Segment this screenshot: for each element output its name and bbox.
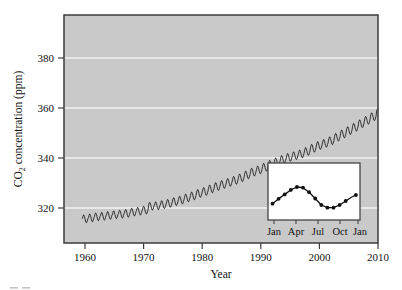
y-axis-title: CO2 concentration (ppm): [12, 71, 27, 188]
y-tick-label-340: 340: [38, 152, 55, 164]
inset-point-oct: [326, 206, 330, 210]
inset-x-label-jan: Jan: [267, 226, 282, 237]
inset-point-aug: [313, 197, 317, 201]
co2-concentration-chart: 380 360 340 320 CO2 concentration (ppm) …: [0, 0, 402, 290]
inset-point-dec: [338, 203, 342, 207]
inset-point-sep: [319, 203, 323, 207]
x-axis-tick-labels: 1960 1970 1980 1990 2000 2010: [74, 251, 390, 263]
inset-point-jan: [271, 202, 275, 206]
y-axis-tick-labels: 380 360 340 320: [38, 52, 55, 214]
svg-text:CO2 concentration (ppm): CO2 concentration (ppm): [12, 71, 27, 188]
inset-x-label-oct: Oct: [332, 226, 347, 237]
x-tick-label-1980: 1980: [191, 251, 214, 263]
y-tick-label-380: 380: [38, 52, 55, 64]
y-axis-title-prefix: CO: [12, 171, 24, 187]
y-axis-title-suffix: concentration (ppm): [12, 71, 25, 168]
x-tick-label-2010: 2010: [367, 251, 390, 263]
inset-x-label-jan2: Jan: [353, 226, 368, 237]
inset-point-jul: [307, 190, 311, 194]
keeling-curve-figure: 380 360 340 320 CO2 concentration (ppm) …: [0, 0, 402, 290]
inset-point-feb: [277, 197, 281, 201]
y-tick-label-360: 360: [38, 102, 55, 114]
inset-x-label-apr: Apr: [288, 226, 305, 237]
y-axis-ticks: [58, 58, 64, 208]
inset-point-apr: [289, 188, 293, 192]
y-tick-label-320: 320: [38, 202, 55, 214]
inset-point-jan2: [344, 199, 348, 203]
inset-point-mar: [283, 193, 287, 197]
inset-point-jun: [301, 186, 305, 190]
x-tick-label-1970: 1970: [133, 251, 156, 263]
inset-background: [268, 163, 360, 220]
caption-stub-mark: [10, 287, 30, 289]
inset-point-nov: [332, 206, 336, 210]
x-axis-ticks: [85, 243, 378, 249]
x-axis-title: Year: [210, 268, 231, 280]
inset-point-may: [295, 185, 299, 189]
x-tick-label-1960: 1960: [74, 251, 97, 263]
x-tick-label-1990: 1990: [250, 251, 273, 263]
inset-point-end: [354, 193, 358, 197]
inset-x-label-jul: Jul: [312, 226, 324, 237]
x-tick-label-2000: 2000: [308, 251, 331, 263]
